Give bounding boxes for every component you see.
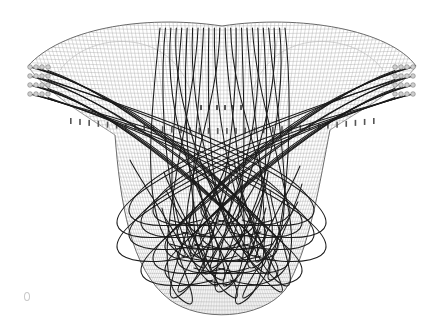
wireframe-sculpture	[0, 0, 443, 330]
corner-circle-icon	[24, 292, 30, 301]
mesh-grid	[0, 10, 443, 326]
mesh-domes	[60, 41, 383, 90]
